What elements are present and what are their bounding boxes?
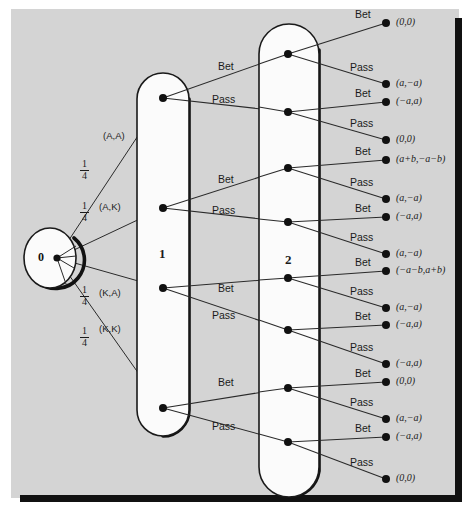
p2-node-7 (284, 438, 292, 446)
p1-3-bet-label: Bet (218, 377, 234, 388)
chance-cards-2: (K,A) (99, 288, 121, 298)
terminal-action-1: Pass (350, 62, 373, 73)
chance-prob-3-num: 1 (80, 326, 89, 337)
p1-node-3 (159, 404, 167, 412)
terminal-node-4 (382, 156, 390, 164)
terminal-node-14 (382, 433, 390, 441)
chance-cards-1: (A,K) (99, 202, 121, 212)
chance-prob-0-num: 1 (80, 159, 89, 170)
chance-prob-3-den: 4 (80, 338, 89, 349)
terminal-action-8: Bet (355, 257, 371, 268)
p2-node-0 (284, 50, 292, 58)
chance-node-dot (53, 254, 60, 261)
terminal-payoff-5: (a,−a) (396, 193, 422, 203)
terminal-action-13: Pass (350, 397, 373, 408)
terminal-payoff-9: (a,−a) (396, 302, 422, 312)
terminal-payoff-8: (−a−b,a+b) (396, 265, 445, 275)
terminal-action-6: Bet (355, 203, 371, 214)
p2-node-2 (284, 164, 292, 172)
game-tree-figure: 0 1 4 1 4 1 4 1 4 (A,A) (A,K) (K,A) (K,K… (0, 0, 470, 518)
terminal-payoff-2: (−a,a) (396, 96, 422, 106)
terminal-payoff-4: (a+b,−a−b) (396, 154, 445, 164)
terminal-node-12 (382, 378, 390, 386)
terminal-action-0: Bet (355, 9, 371, 20)
terminal-action-7: Pass (350, 232, 373, 243)
terminal-action-5: Pass (350, 177, 373, 188)
p1-node-1 (159, 204, 167, 212)
terminal-payoff-0: (0,0) (396, 17, 415, 27)
terminal-action-3: Pass (350, 118, 373, 129)
chance-prob-2-den: 4 (80, 297, 89, 308)
terminal-payoff-7: (a,−a) (396, 248, 422, 258)
terminal-node-11 (382, 360, 390, 368)
terminal-node-1 (382, 80, 390, 88)
chance-prob-0-den: 4 (80, 171, 89, 182)
p2-node-4 (284, 274, 292, 282)
chance-prob-2-num: 1 (80, 285, 89, 296)
p1-0-bet-label: Bet (218, 61, 234, 72)
p1-2-pass-label: Pass (212, 310, 235, 321)
terminal-action-15: Pass (350, 457, 373, 468)
chance-prob-1: 1 4 (80, 201, 89, 223)
terminal-payoff-11: (−a,a) (396, 358, 422, 368)
terminal-action-9: Pass (350, 286, 373, 297)
chance-node-circle (24, 228, 76, 288)
p1-node-2 (159, 284, 167, 292)
chance-prob-1-den: 4 (80, 213, 89, 224)
terminal-node-3 (382, 136, 390, 144)
chance-node (24, 228, 84, 288)
chance-node-label: 0 (38, 251, 44, 263)
terminal-node-0 (382, 19, 390, 27)
terminal-node-15 (382, 475, 390, 483)
p1-3-pass-label: Pass (212, 421, 235, 432)
terminal-payoff-13: (a,−a) (396, 413, 422, 423)
p1-1-pass-label: Pass (212, 205, 235, 216)
infoset-player1-label: 1 (159, 247, 166, 260)
p1-2-bet-label: Bet (218, 283, 234, 294)
terminal-payoff-3: (0,0) (396, 134, 415, 144)
terminal-payoff-15: (0,0) (396, 473, 415, 483)
chance-prob-2: 1 4 (80, 285, 89, 307)
chance-cards-0: (A,A) (103, 131, 125, 141)
p1-0-pass-label: Pass (212, 94, 235, 105)
p2-node-6 (284, 384, 292, 392)
terminal-node-6 (382, 213, 390, 221)
p2-node-3 (284, 218, 292, 226)
terminal-node-8 (382, 267, 390, 275)
terminal-payoff-6: (−a,a) (396, 211, 422, 221)
terminal-payoff-14: (−a,a) (396, 431, 422, 441)
terminal-action-11: Pass (350, 342, 373, 353)
chance-prob-0: 1 4 (80, 159, 89, 181)
terminal-payoff-10: (−a,a) (396, 319, 422, 329)
terminal-payoff-12: (0,0) (396, 376, 415, 386)
chance-cards-3: (K,K) (99, 324, 121, 334)
p1-node-0 (159, 94, 167, 102)
terminal-action-10: Bet (355, 311, 371, 322)
terminal-action-14: Bet (355, 423, 371, 434)
p1-1-bet-label: Bet (218, 174, 234, 185)
terminal-node-9 (382, 304, 390, 312)
terminal-node-13 (382, 415, 390, 423)
terminal-node-5 (382, 195, 390, 203)
terminal-nodes (382, 19, 390, 483)
p2-node-5 (284, 326, 292, 334)
terminal-action-2: Bet (355, 88, 371, 99)
terminal-action-4: Bet (355, 146, 371, 157)
infoset-player2-label: 2 (285, 253, 292, 266)
terminal-action-12: Bet (355, 368, 371, 379)
p2-node-1 (284, 108, 292, 116)
terminal-node-10 (382, 321, 390, 329)
terminal-payoff-1: (a,−a) (396, 78, 422, 88)
chance-prob-1-num: 1 (80, 201, 89, 212)
terminal-node-7 (382, 250, 390, 258)
terminal-node-2 (382, 98, 390, 106)
chance-prob-3: 1 4 (80, 326, 89, 348)
